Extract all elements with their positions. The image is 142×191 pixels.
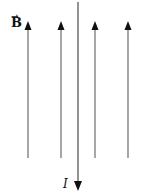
up-arrowhead-icon: [92, 21, 99, 30]
current-label: I: [63, 178, 68, 190]
up-arrowhead-icon: [58, 21, 65, 30]
magnetic-field-line-2: [58, 21, 65, 158]
up-arrowhead-icon: [25, 21, 32, 30]
magnetic-field-line-3: [92, 21, 99, 158]
down-arrowhead-icon: [74, 181, 82, 191]
up-arrowhead-icon: [125, 21, 132, 30]
magnetic-field-line-4: [125, 21, 132, 158]
magnetic-field-line-1: [25, 21, 32, 158]
current-wire: [74, 2, 82, 191]
magnetic-field-label: B: [11, 16, 22, 29]
